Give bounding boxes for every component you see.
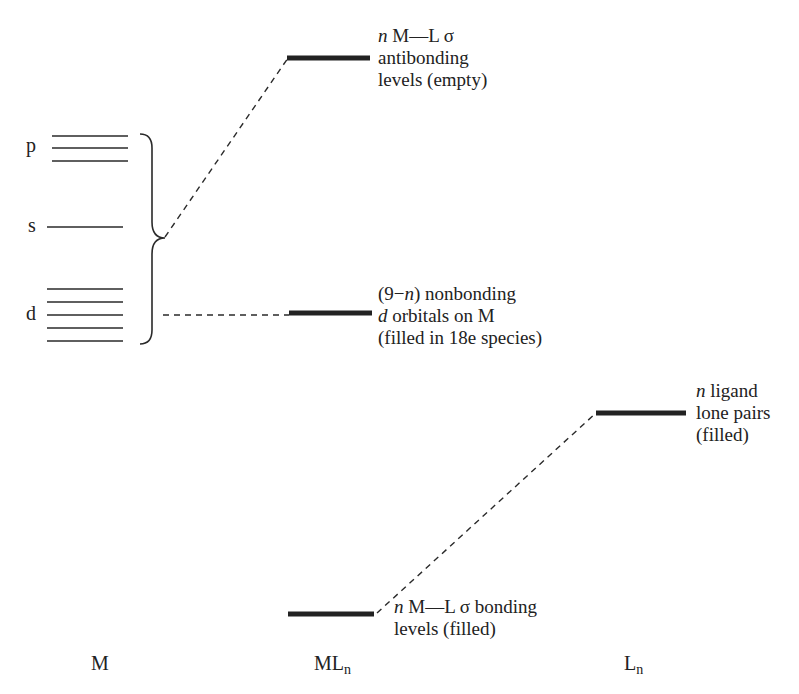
s-orbital-label: s — [28, 214, 36, 237]
antibonding-label: n M—L σ antibonding levels (empty) — [378, 25, 487, 91]
d-symbol: d — [378, 305, 388, 326]
ligand-sub: n — [636, 662, 643, 677]
ml-sigma-bonding-text: M—L σ bonding — [404, 596, 538, 617]
column-label-complex: MLn — [314, 652, 351, 678]
ml-sigma-text: M—L σ — [388, 25, 455, 46]
ligand-text: ligand — [706, 380, 758, 401]
n-symbol: n — [378, 25, 388, 46]
column-label-ligand: Ln — [624, 652, 643, 678]
p-orbital-label: p — [26, 134, 36, 157]
metal-p-levels — [52, 136, 128, 161]
nonbonding-text: ) nonbonding — [414, 283, 516, 304]
ligand-main: L — [624, 652, 636, 674]
orbitals-on-m-text: orbitals on M — [388, 305, 495, 326]
complex-sub: n — [344, 662, 351, 677]
brace — [140, 134, 165, 344]
complex-main: ML — [314, 652, 344, 674]
filled-text: (filled) — [696, 424, 770, 446]
filled-18e-text: (filled in 18e species) — [378, 327, 542, 349]
bonding-filled-text: levels (filled) — [394, 618, 537, 640]
n-symbol: n — [394, 596, 404, 617]
empty-text: levels (empty) — [378, 69, 487, 91]
ligand-label: n ligand lone pairs (filled) — [696, 380, 770, 446]
n-symbol: n — [405, 283, 415, 304]
metal-d-levels — [47, 289, 123, 341]
d-orbital-label: d — [26, 302, 36, 325]
bonding-label: n M—L σ bonding levels (filled) — [394, 596, 537, 640]
lone-pairs-text: lone pairs — [696, 402, 770, 424]
nine-minus: (9− — [378, 283, 405, 304]
n-symbol: n — [696, 380, 706, 401]
nonbonding-label: (9−n) nonbonding d orbitals on M (filled… — [378, 283, 542, 349]
column-label-metal: M — [91, 652, 109, 675]
antibonding-text: antibonding — [378, 47, 487, 69]
complex-levels — [287, 58, 374, 614]
